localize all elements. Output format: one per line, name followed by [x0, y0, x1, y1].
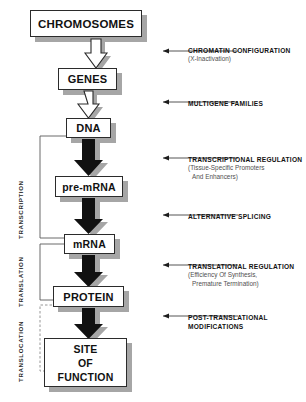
annotation-title: POST-TRANSLATIONAL	[188, 313, 268, 322]
annotation-title: MULTIGENE FAMILIES	[188, 99, 263, 108]
node-pre-mrna: pre-mRNA	[55, 176, 123, 197]
gene-expression-flowchart: CHROMOSOMES GENES DNA pre-mRNA mRNA PROT…	[0, 0, 306, 402]
phase-label-translation: TRANSLATION	[17, 257, 24, 307]
arrow-genes-to-dna	[78, 91, 103, 121]
phase-label-transcription: TRANSCRIPTION	[17, 180, 24, 239]
annotation-subtitle: (X-Inactivation)	[188, 55, 291, 64]
annotation-title: TRANSLATIONAL REGULATION	[188, 262, 294, 271]
arrow-chromosomes-to-genes	[85, 39, 111, 71]
phase-label-translocation: TRANSLOCATION	[17, 321, 24, 382]
node-protein: PROTEIN	[53, 286, 124, 307]
annotation-alternative-splicing: ALTERNATIVE SPLICING	[188, 212, 271, 221]
annotation-subtitle: MODIFICATIONS	[188, 322, 268, 331]
annotation-transcriptional-regulation: TRANSCRIPTIONAL REGULATION (Tissue-Speci…	[188, 155, 302, 181]
annotation-subtitle-line-1: (Tissue-Specific Promoters	[188, 164, 302, 173]
annotation-title: TRANSCRIPTIONAL REGULATION	[188, 155, 302, 164]
node-chromosomes: CHROMOSOMES	[30, 10, 142, 37]
annotation-subtitle-line-2: Premature Termination)	[188, 280, 294, 289]
annotation-translational-regulation: TRANSLATIONAL REGULATION (Efficiency Of …	[188, 262, 294, 288]
annotation-subtitle-line-1: (Efficiency Of Synthesis,	[188, 271, 294, 280]
node-mrna: mRNA	[64, 234, 115, 254]
arrow-premrna-to-mrna	[74, 198, 108, 237]
annotation-chromatin-configuration: CHROMATIN CONFIGURATION (X-Inactivation)	[188, 46, 291, 64]
arrow-mrna-to-protein	[74, 255, 108, 290]
annotation-multigene-families: MULTIGENE FAMILIES	[188, 99, 263, 108]
node-dna: DNA	[66, 118, 111, 138]
node-site-of-function: SITE OF FUNCTION	[44, 338, 127, 387]
annotation-title: CHROMATIN CONFIGURATION	[188, 46, 291, 55]
annotation-title: ALTERNATIVE SPLICING	[188, 212, 271, 221]
arrow-dna-to-premrna	[74, 139, 108, 179]
node-genes: GENES	[58, 68, 117, 90]
annotation-subtitle-line-2: And Enhancers)	[188, 173, 302, 182]
arrow-protein-to-site	[74, 308, 108, 342]
annotation-post-translational-modifications: POST-TRANSLATIONAL MODIFICATIONS	[188, 313, 268, 331]
